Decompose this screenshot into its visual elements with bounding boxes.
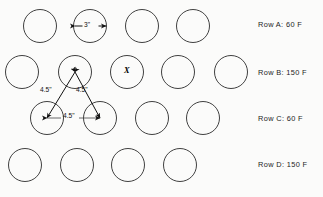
dimension-lines-layer — [47, 26, 106, 118]
circle-row-a-0 — [24, 10, 57, 43]
triangle-left-leg-label: 4.5" — [40, 86, 52, 93]
circle-row-b-0 — [6, 56, 39, 89]
circle-row-d-2 — [112, 149, 145, 182]
circle-row-a-2 — [126, 10, 159, 43]
row-label-c: Row C: 60 F — [258, 114, 303, 123]
triangle-right-leg — [75, 72, 100, 118]
row-label-b: Row B: 150 F — [258, 68, 307, 77]
circle-row-d-0 — [9, 149, 42, 182]
circles-layer — [6, 10, 248, 182]
triangle-base-label: 4.5" — [63, 112, 75, 119]
circle-row-d-3 — [164, 149, 197, 182]
row-label-d: Row D: 150 F — [258, 160, 307, 169]
row-label-a: Row A: 60 F — [258, 20, 302, 29]
circle-row-b-3 — [162, 56, 195, 89]
circle-row-c-3 — [187, 102, 220, 135]
diameter-dimension-label: 3" — [84, 21, 90, 28]
circle-row-d-1 — [61, 149, 94, 182]
triangle-right-leg-label: 4.5" — [76, 86, 88, 93]
circle-row-b-4 — [215, 56, 248, 89]
x-marker-label: X — [124, 66, 130, 75]
circle-row-c-2 — [136, 102, 169, 135]
diagram-canvas: Row A: 60 F Row B: 150 F Row C: 60 F Row… — [0, 0, 323, 197]
circle-row-a-3 — [177, 10, 210, 43]
